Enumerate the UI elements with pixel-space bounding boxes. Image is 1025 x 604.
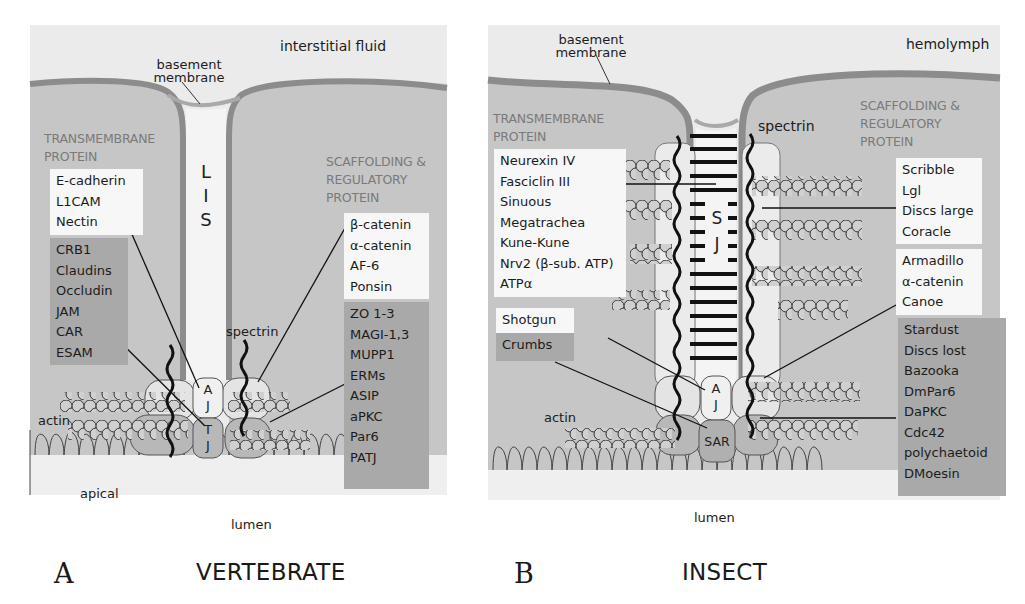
protein-item: Fasciclin III (500, 172, 620, 193)
lumen-label: lumen (694, 510, 735, 525)
scaffolding-sj-list: Scribble Lgl Discs large Coracle (896, 158, 982, 244)
aj-letter-j: J (200, 398, 216, 414)
protein-item: polychaetoid (904, 443, 1000, 464)
protein-item: JAM (56, 302, 122, 323)
panel-b-title: INSECT (682, 559, 767, 585)
protein-item: DaPKC (904, 402, 1000, 423)
header-line1: SCAFFOLDING & (860, 97, 960, 115)
lis-letter-l: L (194, 160, 218, 184)
protein-item: Nectin (56, 212, 137, 233)
transmembrane-aj-list: Shotgun (496, 308, 574, 333)
protein-item: Claudins (56, 261, 122, 282)
aj-letter-a: A (200, 382, 216, 398)
header-line1: TRANSMEMBRANE (493, 110, 604, 128)
lis-letter-i: I (194, 184, 218, 208)
protein-item: Coracle (902, 222, 976, 243)
protein-item: Lgl (902, 181, 976, 202)
tight-junction-label: T J (200, 422, 216, 454)
transmembrane-protein-header: TRANSMEMBRANE PROTEIN (44, 130, 155, 166)
adherens-junction-label: A J (200, 382, 216, 414)
basement-membrane-label: basement membrane (552, 33, 630, 59)
protein-item: ATPα (500, 274, 620, 295)
header-line2: PROTEIN (44, 148, 155, 166)
header-line3: PROTEIN (860, 133, 960, 151)
protein-item: ASIP (350, 386, 423, 407)
protein-item: Crumbs (502, 335, 568, 356)
protein-item: Bazooka (904, 361, 1000, 382)
protein-item: DmPar6 (904, 382, 1000, 403)
protein-item: CRB1 (56, 240, 122, 261)
protein-item: α-catenin (350, 236, 423, 257)
actin-label: actin (38, 413, 70, 428)
basement-membrane-line2: membrane (152, 71, 226, 84)
lis-label: L I S (194, 160, 218, 232)
sar-label: SAR (699, 434, 735, 450)
protein-item: E-cadherin (56, 171, 137, 192)
transmembrane-aj-list: E-cadherin L1CAM Nectin (50, 169, 143, 235)
protein-item: Shotgun (502, 310, 568, 331)
protein-item: aPKC (350, 407, 423, 428)
transmembrane-sar-list: Crumbs (496, 333, 574, 361)
lumen-label: lumen (231, 517, 272, 532)
transmembrane-tj-list: CRB1 Claudins Occludin JAM CAR ESAM (50, 238, 128, 365)
protein-item: Kune-Kune (500, 233, 620, 254)
transmembrane-sj-list: Neurexin IV Fasciclin III Sinuous Megatr… (494, 149, 626, 297)
protein-item: Ponsin (350, 277, 423, 298)
protein-item: MAGI-1,3 (350, 325, 423, 346)
protein-item: MUPP1 (350, 345, 423, 366)
protein-item: α-catenin (902, 272, 976, 293)
protein-item: Discs lost (904, 341, 1000, 362)
actin-label: actin (544, 410, 576, 425)
protein-item: β-catenin (350, 215, 423, 236)
protein-item: Cdc42 (904, 423, 1000, 444)
protein-item: Armadillo (902, 251, 976, 272)
scaffolding-sar-list: Stardust Discs lost Bazooka DmPar6 DaPKC… (898, 318, 1006, 496)
scaffolding-tj-list: ZO 1-3 MAGI-1,3 MUPP1 ERMs ASIP aPKC Par… (344, 302, 429, 489)
aj-letter-j: J (708, 397, 724, 413)
spectrin-label: spectrin (758, 119, 815, 134)
protein-item: Discs large (902, 201, 976, 222)
basement-membrane-line2: membrane (552, 46, 630, 59)
protein-item: Sinuous (500, 192, 620, 213)
protein-item: Canoe (902, 292, 976, 313)
scaffolding-protein-header: SCAFFOLDING & REGULATORY PROTEIN (326, 153, 426, 207)
protein-item: CAR (56, 322, 122, 343)
protein-item: ERMs (350, 366, 423, 387)
spectrin-label: spectrin (226, 324, 278, 339)
transmembrane-protein-header: TRANSMEMBRANE PROTEIN (493, 110, 604, 146)
septate-junction-label: S J (706, 205, 728, 257)
protein-item: Occludin (56, 281, 122, 302)
sj-letter-s: S (706, 205, 728, 231)
protein-item: ZO 1-3 (350, 304, 423, 325)
protein-item: Nrv2 (β-sub. ATP) (500, 254, 620, 275)
tj-letter-t: T (200, 422, 216, 438)
basement-membrane-label: basement membrane (152, 58, 226, 84)
scaffolding-protein-header: SCAFFOLDING & REGULATORY PROTEIN (860, 97, 960, 151)
aj-letter-a: A (708, 381, 724, 397)
header-line2: REGULATORY (326, 171, 426, 189)
protein-item: AF-6 (350, 256, 423, 277)
tj-letter-j: J (200, 438, 216, 454)
hemolymph-label: hemolymph (906, 37, 989, 52)
protein-item: Stardust (904, 320, 1000, 341)
header-line1: SCAFFOLDING & (326, 153, 426, 171)
panel-a-letter: A (54, 558, 74, 589)
protein-item: Scribble (902, 160, 976, 181)
panel-a-title: VERTEBRATE (196, 559, 346, 585)
protein-item: PATJ (350, 448, 423, 469)
protein-item: DMoesin (904, 464, 1000, 485)
epithelial-junction-diagram (0, 0, 1025, 604)
protein-item: Neurexin IV (500, 151, 620, 172)
header-line2: REGULATORY (860, 115, 960, 133)
protein-item: Megatrachea (500, 213, 620, 234)
header-line1: TRANSMEMBRANE (44, 130, 155, 148)
panel-b-letter: B (514, 558, 534, 589)
interstitial-fluid-label: interstitial fluid (280, 39, 386, 54)
adherens-junction-label: A J (708, 381, 724, 413)
sj-letter-j: J (706, 231, 728, 257)
header-line2: PROTEIN (493, 128, 604, 146)
protein-item: Par6 (350, 427, 423, 448)
scaffolding-aj-list: β-catenin α-catenin AF-6 Ponsin (344, 213, 429, 299)
protein-item: L1CAM (56, 192, 137, 213)
scaffolding-aj-list: Armadillo α-catenin Canoe (896, 249, 982, 315)
